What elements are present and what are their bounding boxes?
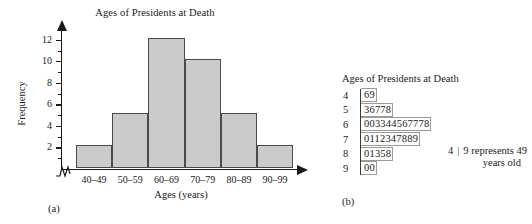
- stemplot-title: Ages of Presidents at Death: [342, 73, 459, 84]
- legend-description-line2: years old: [448, 157, 527, 168]
- stem-value: 8: [342, 148, 357, 159]
- legend-separator: |: [453, 145, 463, 156]
- stemplot-row: 900: [342, 161, 431, 176]
- stemplot-panel: Ages of Presidents at Death 469536778600…: [336, 0, 532, 224]
- stem-value: 6: [342, 119, 357, 130]
- x-axis-tick-label: 80–89: [221, 174, 257, 185]
- legend-leaf-value: 9: [463, 145, 468, 156]
- leaf-values: 01358: [361, 147, 393, 161]
- leaf-values: 36778: [361, 103, 393, 117]
- y-axis-tick-label: 12: [30, 33, 52, 44]
- leaf-values: 00: [361, 161, 377, 175]
- stemplot-legend: 4|9 represents 49 years old: [448, 145, 527, 168]
- leaf-values: 003344567778: [361, 117, 431, 131]
- histogram-bar: [148, 38, 184, 168]
- y-axis-tick-label: 8: [30, 76, 52, 87]
- stem-separator-line: [360, 89, 361, 175]
- histogram-panel: Ages of Presidents at Death Frequency 24…: [0, 0, 336, 224]
- stemplot-body: 4695367786003344567778701123478898013589…: [342, 88, 431, 176]
- stemplot-row: 801358: [342, 146, 431, 161]
- x-axis-tick-label: 70–79: [185, 174, 221, 185]
- panel-b-caption: (b): [342, 196, 354, 207]
- histogram-plot-area: [62, 28, 300, 168]
- stemplot-row: 536778: [342, 103, 431, 118]
- leaf-values: 69: [361, 88, 377, 102]
- stemplot-row: 469: [342, 88, 431, 103]
- legend-description: represents 49: [471, 145, 527, 156]
- y-axis-tick-label: 10: [30, 55, 52, 66]
- histogram-bar: [76, 145, 112, 168]
- stem-value: 7: [342, 134, 357, 145]
- stem-value: 4: [342, 90, 357, 101]
- x-axis-title: Ages (years): [62, 189, 300, 200]
- stem-value: 5: [342, 104, 357, 115]
- x-axis-tick-label: 50–59: [112, 174, 148, 185]
- histogram-bar: [221, 113, 257, 168]
- y-axis-tick-labels: 24681012: [26, 0, 52, 224]
- leaf-values: 0112347889: [361, 132, 420, 146]
- y-axis-tick-label: 4: [30, 119, 52, 130]
- y-axis-title: Frequency: [16, 59, 27, 149]
- x-axis-tick-label: 60–69: [148, 174, 184, 185]
- stem-value: 9: [342, 163, 357, 174]
- stemplot-row: 70112347889: [342, 132, 431, 147]
- histogram-bar: [257, 145, 293, 168]
- x-axis-line: [61, 169, 299, 170]
- histogram-bar: [185, 59, 221, 168]
- x-axis-tick-label: 90–99: [257, 174, 293, 185]
- y-axis-tick-label: 2: [30, 141, 52, 152]
- axis-break-icon: [55, 162, 73, 178]
- panel-a-caption: (a): [48, 203, 60, 214]
- histogram-bar: [112, 113, 148, 168]
- stemplot-row: 6003344567778: [342, 117, 431, 132]
- y-axis-tick-label: 6: [30, 98, 52, 109]
- x-axis-tick-label: 40–49: [76, 174, 112, 185]
